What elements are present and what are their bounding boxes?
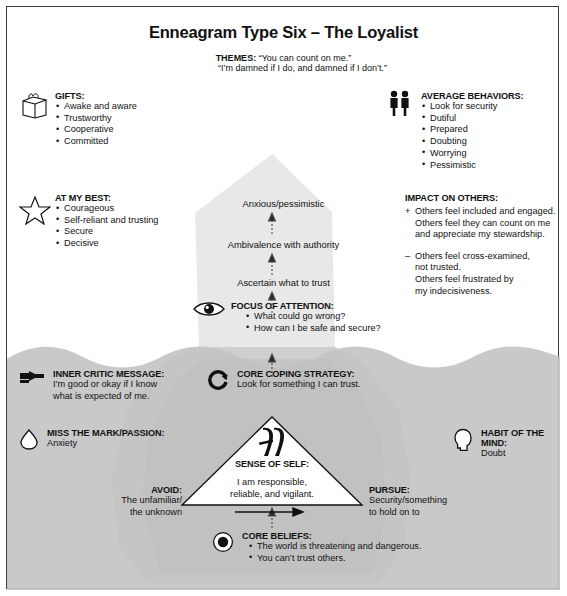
berg-level-1: Anxious/pessimistic bbox=[7, 198, 560, 209]
gifts-list: Awake and aware Trustworthy Cooperative … bbox=[55, 101, 189, 148]
list-item: How can I be safe and secure? bbox=[245, 323, 423, 335]
pursue-heading: PURSUE: bbox=[369, 485, 489, 495]
core-coping-line: Look for something I can trust. bbox=[237, 379, 427, 391]
berg-level-3: Ascertain what to trust bbox=[7, 277, 560, 288]
themes-line-1: “You can count on me.” bbox=[259, 53, 352, 63]
impact-positive-sign: + bbox=[405, 206, 415, 241]
inner-critic-line: what is expected of me. bbox=[53, 391, 194, 403]
list-item: Doubting bbox=[421, 136, 561, 148]
poster-frame: Enneagram Type Six – The Loyalist THEMES… bbox=[6, 6, 559, 589]
core-beliefs-block: CORE BELIEFS: The world is threatening a… bbox=[212, 531, 422, 564]
list-item: Self-reliant and trusting bbox=[55, 215, 197, 227]
enneagram-type-six-poster: Enneagram Type Six – The Loyalist THEMES… bbox=[0, 0, 567, 596]
average-behaviors-heading: AVERAGE BEHAVIORS: bbox=[421, 91, 561, 101]
impact-positive: + Others feel included and engaged. Othe… bbox=[405, 206, 555, 241]
page-title: Enneagram Type Six – The Loyalist bbox=[7, 23, 560, 42]
sense-of-self-heading: SENSE OF SELF: bbox=[182, 459, 362, 469]
inner-critic-heading: INNER CRITIC MESSAGE: bbox=[53, 369, 194, 379]
avoid-line-2: the unknown bbox=[77, 507, 182, 519]
list-item: Dutiful bbox=[421, 113, 561, 125]
miss-the-mark-line: Anxiety bbox=[47, 438, 194, 450]
list-item: Committed bbox=[55, 136, 189, 148]
pointing-hand-icon bbox=[19, 369, 47, 385]
themes-block: THEMES: “You can count on me.” “I’m damn… bbox=[7, 53, 560, 73]
focus-of-attention-list: What could go wrong? How can I be safe a… bbox=[231, 311, 423, 334]
gifts-block: GIFTS: Awake and aware Trustworthy Coope… bbox=[19, 91, 189, 148]
circular-arrow-icon bbox=[207, 369, 229, 391]
avoid-heading: AVOID: bbox=[77, 485, 182, 495]
average-behaviors-block: AVERAGE BEHAVIORS: Look for security Dut… bbox=[385, 91, 561, 171]
sense-of-self-line-2: reliable, and vigilant. bbox=[182, 489, 362, 501]
impact-negative-line: Others feel cross-examined, bbox=[415, 251, 530, 263]
pursue-block: PURSUE: Security/something to hold on to bbox=[369, 485, 489, 518]
list-item: You can’t trust others. bbox=[248, 553, 422, 565]
miss-the-mark-block: MISS THE MARK/PASSION: Anxiety bbox=[19, 428, 194, 450]
themes-label: THEMES: bbox=[216, 53, 257, 63]
themes-line-2: “I’m damned if I do, and damned if I don… bbox=[7, 63, 560, 73]
enneagram-six-glyph bbox=[257, 427, 291, 459]
impact-positive-line: Others feel they can count on me bbox=[415, 218, 555, 230]
list-item: The world is threatening and dangerous. bbox=[248, 541, 422, 553]
list-item: What could go wrong? bbox=[245, 311, 423, 323]
pursue-line-2: to hold on to bbox=[369, 507, 489, 519]
impact-negative-line: not trusted. bbox=[415, 262, 530, 274]
core-coping-heading: CORE COPING STRATEGY: bbox=[237, 369, 427, 379]
inner-critic-line: I’m good or okay if I know bbox=[53, 379, 194, 391]
sense-of-self-body: I am responsible, reliable, and vigilant… bbox=[182, 477, 362, 500]
list-item: Trustworthy bbox=[55, 113, 189, 125]
core-beliefs-heading: CORE BELIEFS: bbox=[242, 531, 422, 541]
list-item: Secure bbox=[55, 226, 197, 238]
gift-box-icon bbox=[19, 91, 49, 119]
miss-the-mark-heading: MISS THE MARK/PASSION: bbox=[47, 428, 194, 438]
average-behaviors-list: Look for security Dutiful Prepared Doubt… bbox=[421, 101, 561, 171]
list-item: Prepared bbox=[421, 124, 561, 136]
impact-negative-sign: – bbox=[405, 251, 415, 297]
berg-level-2: Ambivalence with authority bbox=[7, 239, 560, 250]
list-item: Worrying bbox=[421, 148, 561, 160]
inner-critic-block: INNER CRITIC MESSAGE: I’m good or okay i… bbox=[19, 369, 194, 402]
core-coping-block: CORE COPING STRATEGY: Look for something… bbox=[207, 369, 427, 391]
habit-of-mind-line: Doubt bbox=[481, 448, 563, 460]
head-profile-icon bbox=[453, 428, 475, 452]
sense-of-self-line-1: I am responsible, bbox=[182, 477, 362, 489]
core-beliefs-list: The world is threatening and dangerous. … bbox=[242, 541, 422, 564]
teardrop-icon bbox=[19, 428, 39, 450]
impact-negative: – Others feel cross-examined, not truste… bbox=[405, 251, 530, 297]
avoid-line-1: The unfamiliar/ bbox=[77, 495, 182, 507]
sense-of-self-heading-wrap: SENSE OF SELF: bbox=[182, 459, 362, 469]
target-dot-icon bbox=[212, 531, 234, 553]
two-people-icon bbox=[385, 89, 415, 117]
focus-of-attention-block: FOCUS OF ATTENTION: What could go wrong?… bbox=[193, 301, 423, 334]
list-item: Awake and aware bbox=[55, 101, 189, 113]
habit-of-mind-heading: HABIT OF THE MIND: bbox=[481, 428, 563, 448]
pursue-line-1: Security/something bbox=[369, 495, 489, 507]
focus-of-attention-heading: FOCUS OF ATTENTION: bbox=[231, 301, 423, 311]
list-item: Pessimistic bbox=[421, 160, 561, 172]
list-item: Look for security bbox=[421, 101, 561, 113]
eye-icon bbox=[193, 301, 225, 317]
list-item: Cooperative bbox=[55, 124, 189, 136]
gifts-heading: GIFTS: bbox=[55, 91, 189, 101]
habit-of-mind-block: HABIT OF THE MIND: Doubt bbox=[453, 428, 563, 460]
avoid-block: AVOID: The unfamiliar/ the unknown bbox=[77, 485, 182, 518]
